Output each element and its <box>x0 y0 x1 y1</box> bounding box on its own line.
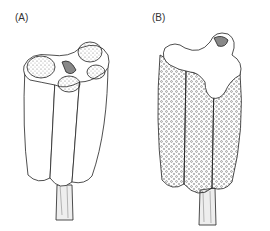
figure-illustration <box>0 0 270 231</box>
anther-a <box>24 42 109 220</box>
anther-b <box>158 33 241 225</box>
